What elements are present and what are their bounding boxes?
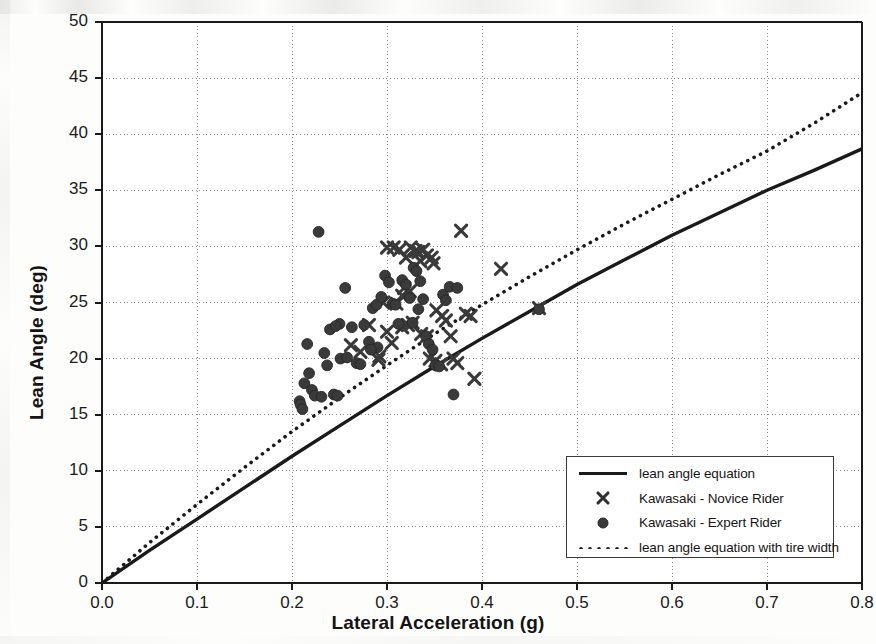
y-tick-label: 10 — [48, 460, 88, 480]
y-tick-label: 20 — [48, 348, 88, 368]
x-tick-label: 0.6 — [642, 593, 702, 613]
legend-circle-marker-icon — [567, 510, 639, 535]
legend-item-label: Kawasaki - Novice Rider — [639, 491, 784, 506]
data-point-circle — [340, 283, 351, 294]
legend-dotted-line-icon — [567, 535, 639, 560]
x-tick-label: 0.2 — [262, 593, 322, 613]
y-tick-label: 30 — [48, 235, 88, 255]
data-point-circle — [418, 294, 429, 305]
data-point-circle — [342, 352, 353, 363]
y-tick-label: 0 — [48, 572, 88, 592]
data-point-circle — [427, 344, 438, 355]
chart-figure: Lean Angle (deg) Lateral Acceleration (g… — [0, 0, 876, 644]
data-point-circle — [401, 279, 412, 290]
x-tick-label: 0.1 — [167, 593, 227, 613]
y-tick-label: 5 — [48, 516, 88, 536]
x-tick-label: 0.3 — [357, 593, 417, 613]
data-point-circle — [322, 360, 333, 371]
data-point-circle — [365, 344, 376, 355]
y-tick-label: 25 — [48, 292, 88, 312]
legend-item-x-marker: Kawasaki - Novice Rider — [567, 486, 835, 511]
y-axis-title: Lean Angle (deg) — [26, 265, 48, 420]
data-point-circle — [534, 304, 545, 315]
data-point-circle — [384, 277, 395, 288]
dotted-line-swatch — [577, 545, 629, 549]
legend-solid-line-icon — [567, 461, 639, 486]
data-point-circle — [313, 226, 324, 237]
data-point-circle — [452, 283, 463, 294]
legend-item-circle-marker: Kawasaki - Expert Rider — [567, 510, 835, 535]
data-point-circle — [316, 391, 327, 402]
data-point-circle — [448, 389, 459, 400]
legend-x-marker-icon — [567, 486, 639, 511]
legend-item-label: Kawasaki - Expert Rider — [639, 515, 782, 530]
data-point-circle — [297, 404, 308, 415]
y-tick-label: 50 — [48, 11, 88, 31]
y-tick-label: 35 — [48, 179, 88, 199]
data-point-circle — [359, 320, 370, 331]
data-point-circle — [390, 299, 401, 310]
y-tick-label: 40 — [48, 123, 88, 143]
x-tick-label: 0.5 — [547, 593, 607, 613]
x-tick-label: 0.7 — [737, 593, 797, 613]
data-point-circle — [407, 317, 418, 328]
data-point-circle — [304, 368, 315, 379]
data-point-circle — [319, 348, 330, 359]
data-point-circle — [415, 276, 426, 287]
x-tick-label: 0.8 — [832, 593, 876, 613]
legend-item-label: lean angle equation with tire width — [639, 540, 839, 555]
y-tick-label: 45 — [48, 67, 88, 87]
data-point-circle — [413, 304, 424, 315]
x-tick-label: 0.4 — [452, 593, 512, 613]
data-point-circle — [434, 361, 445, 372]
solid-line-swatch — [579, 472, 627, 475]
y-tick-label: 15 — [48, 404, 88, 424]
chart-legend: lean angle equationKawasaki - Novice Rid… — [566, 456, 834, 558]
x-axis-title: Lateral Acceleration (g) — [0, 612, 876, 634]
data-point-circle — [355, 359, 366, 370]
legend-item-solid-line: lean angle equation — [567, 461, 835, 486]
data-point-circle — [332, 390, 343, 401]
data-point-circle — [302, 339, 313, 350]
data-point-circle — [411, 266, 422, 277]
data-point-circle — [393, 318, 404, 329]
data-point-circle — [404, 293, 415, 304]
data-point-circle — [376, 291, 387, 302]
data-point-circle — [346, 322, 357, 333]
legend-item-label: lean angle equation — [639, 466, 755, 481]
data-point-circle — [441, 295, 452, 306]
x-tick-label: 0.0 — [72, 593, 132, 613]
legend-item-dotted-line: lean angle equation with tire width — [567, 535, 835, 560]
data-point-circle — [330, 321, 341, 332]
